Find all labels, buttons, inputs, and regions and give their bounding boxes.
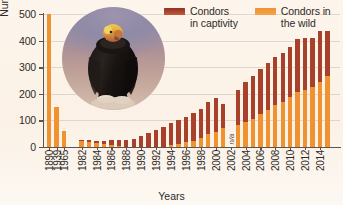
bar — [87, 140, 91, 147]
bar-segment-captivity — [258, 69, 262, 113]
bar-segment-captivity — [191, 113, 195, 141]
bar — [221, 104, 225, 147]
bar — [251, 76, 255, 147]
x-tick-mark — [126, 147, 127, 150]
x-tick-mark — [64, 147, 65, 150]
bar — [273, 57, 277, 147]
y-tick-mark — [39, 94, 44, 95]
bar-segment-wild — [325, 76, 329, 147]
y-tick-label: 100 — [19, 114, 36, 126]
bar-segment-wild — [214, 132, 218, 147]
bar — [184, 117, 188, 147]
x-tick-label: 1994 — [166, 150, 177, 171]
bar — [199, 109, 203, 147]
bar — [258, 69, 262, 147]
bar-segment-wild — [303, 90, 307, 147]
bar-segment-captivity — [154, 130, 158, 147]
bar — [318, 31, 322, 147]
bar-segment-captivity — [184, 117, 188, 143]
bar — [206, 102, 210, 147]
bar — [102, 141, 106, 147]
x-tick-label: 2010 — [285, 150, 296, 171]
bar — [266, 63, 270, 147]
x-tick-mark — [186, 147, 187, 150]
legend-label-wild: Condors in the wild — [281, 6, 331, 29]
bar — [154, 130, 158, 147]
bar-segment-wild — [258, 114, 262, 147]
x-tick-mark — [246, 147, 247, 150]
x-tick-label: 2002 — [226, 150, 237, 171]
x-tick-mark — [320, 147, 321, 150]
bar — [109, 140, 113, 147]
california-condor-photo — [62, 7, 165, 110]
bar-segment-captivity — [206, 102, 210, 134]
bar-segment-captivity — [273, 57, 277, 105]
y-tick-mark — [39, 14, 44, 15]
x-tick-label: 1998 — [196, 150, 207, 171]
y-tick-label: 500 — [19, 8, 36, 20]
bar-segment-wild — [62, 131, 66, 147]
bar — [47, 14, 51, 147]
x-tick-mark — [305, 147, 306, 150]
bar-segment-captivity — [266, 63, 270, 110]
x-tick-mark — [82, 147, 83, 150]
bar — [79, 140, 83, 147]
bar-segment-captivity — [214, 98, 218, 132]
bar-segment-captivity — [325, 31, 329, 75]
bar — [281, 53, 285, 147]
x-tick-mark — [49, 147, 50, 150]
x-tick-mark — [260, 147, 261, 150]
bar-segment-captivity — [169, 123, 173, 145]
x-tick-label: 1986 — [106, 150, 117, 171]
bar — [117, 140, 121, 147]
y-tick-mark — [39, 147, 44, 148]
x-tick-mark — [156, 147, 157, 150]
bar-segment-captivity — [303, 38, 307, 89]
bar-segment-captivity — [139, 136, 143, 147]
bar-segment-captivity — [243, 82, 247, 122]
bar-segment-wild — [251, 119, 255, 147]
legend-swatch-captivity-icon — [164, 8, 185, 15]
bar-segment-wild — [54, 107, 58, 147]
x-tick-label: 1996 — [181, 150, 192, 171]
bar — [124, 140, 128, 147]
bar-segment-wild — [87, 142, 91, 147]
bar — [191, 113, 195, 147]
x-tick-label: 2012 — [300, 150, 311, 171]
bar-segment-wild — [191, 141, 195, 147]
legend-swatch-wild-icon — [255, 8, 276, 15]
x-tick-label: 2000 — [211, 150, 222, 171]
bar-segment-wild — [318, 82, 322, 147]
bar-segment-captivity — [251, 76, 255, 119]
bar-segment-wild — [273, 105, 277, 147]
x-tick-label: 2006 — [255, 150, 266, 171]
x-tick-mark — [290, 147, 291, 150]
y-tick-label: 200 — [19, 88, 36, 100]
bar-segment-wild — [288, 97, 292, 147]
x-tick-mark — [97, 147, 98, 150]
bar-segment-captivity — [132, 139, 136, 148]
x-tick-mark — [231, 147, 232, 150]
bar — [54, 107, 58, 147]
bar — [161, 127, 165, 147]
bar-segment-captivity — [176, 120, 180, 144]
x-tick-label: 1965 — [59, 150, 70, 171]
bar — [146, 133, 150, 147]
bar-segment-captivity — [124, 140, 128, 147]
bar-segment-wild — [206, 134, 210, 147]
bar — [139, 136, 143, 147]
x-tick-mark — [216, 147, 217, 150]
x-tick-label: 1982 — [77, 150, 88, 171]
bar — [169, 123, 173, 147]
bar-segment-wild — [47, 14, 51, 147]
bar-segment-captivity — [281, 53, 285, 102]
y-tick-mark — [39, 120, 44, 121]
bar-segment-captivity — [199, 109, 203, 138]
bar — [310, 38, 314, 147]
bar — [62, 131, 66, 147]
bar-segment-wild — [243, 122, 247, 147]
x-tick-mark — [57, 147, 58, 150]
legend: Condors in captivity Condors in the wild — [164, 6, 331, 29]
bar — [132, 139, 136, 148]
x-tick-label: 2014 — [315, 150, 326, 171]
